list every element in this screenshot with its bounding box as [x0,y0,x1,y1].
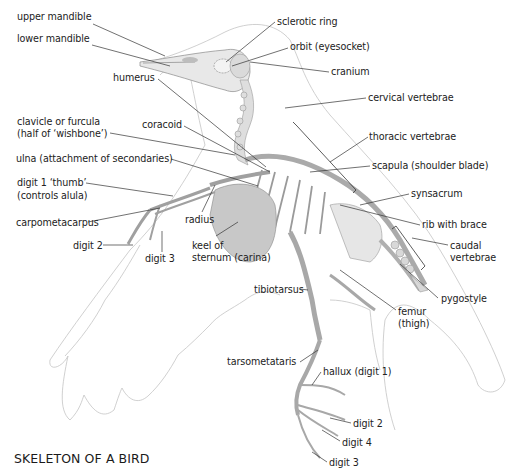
label-coracoid: coracoid [142,119,182,131]
label-sclerotic-ring: sclerotic ring [277,16,338,28]
label-hallux: hallux (digit 1) [323,366,391,378]
label-lower-mandible: lower mandible [17,33,90,45]
label-scapula: scapula (shoulder blade) [372,160,488,172]
label-foot-digit-4: digit 4 [342,437,372,449]
label-caudal-sub: vertebrae [450,252,496,264]
skeleton-illustration [0,0,518,473]
label-upper-mandible: upper mandible [17,11,91,23]
label-digit1-sub: (controls alula) [17,190,87,202]
label-femur: femur [398,306,426,318]
label-pygostyle: pygostyle [441,293,487,305]
label-femur-sub: (thigh) [398,318,429,330]
label-radius: radius [185,214,214,226]
diagram-title: SKELETON OF A BIRD [14,451,150,466]
label-wing-digit-2: digit 2 [73,240,103,252]
label-cranium: cranium [331,66,370,78]
label-keel-sub: sternum (carina) [192,252,271,264]
label-tarsometataris: tarsometataris [227,356,296,368]
label-foot-digit-2: digit 2 [353,418,383,430]
label-cervical-vertebrae: cervical vertebrae [368,92,454,104]
label-tibiotarsus: tibiotarsus [254,284,304,296]
label-ulna: ulna (attachment of secondaries) [16,153,173,165]
label-humerus: humerus [113,72,155,84]
label-orbit: orbit (eyesocket) [290,41,370,53]
label-synsacrum: synsacrum [411,188,462,200]
label-clavicle: clavicle or furcula [17,116,100,128]
bird-skeleton-diagram: upper mandible lower mandible sclerotic … [0,0,518,473]
label-keel: keel of [192,240,223,252]
label-carpometacarpus: carpometacarpus [16,217,99,229]
cervical-spine [234,80,253,165]
label-caudal: caudal [450,240,481,252]
label-thoracic-vertebrae: thoracic vertebrae [369,131,456,143]
label-rib-with-brace: rib with brace [422,219,487,231]
label-clavicle-sub: (half of ‘wishbone’) [17,128,107,140]
label-digit1-thumb: digit 1 ‘thumb’ [17,177,86,189]
label-wing-digit-3: digit 3 [145,253,175,265]
label-foot-digit-3: digit 3 [329,457,359,469]
